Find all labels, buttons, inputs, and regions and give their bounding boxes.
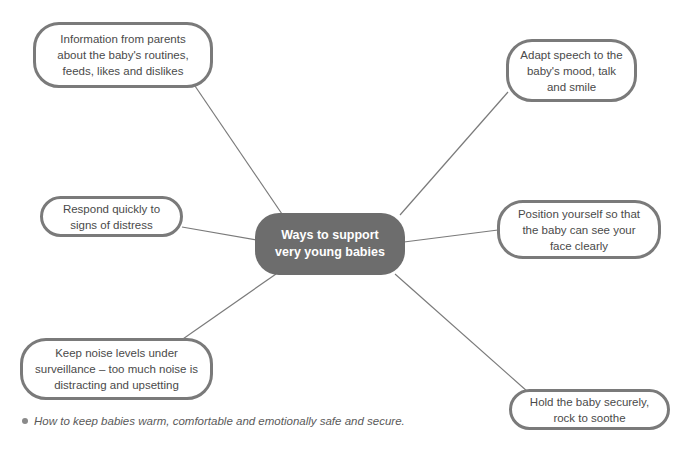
- connector-noise-levels: [180, 274, 276, 341]
- node-adapt-speech: Adapt speech to the baby's mood, talk an…: [506, 39, 637, 102]
- node-label: Keep noise levels under surveillance – t…: [33, 345, 200, 393]
- node-label: Information from parents about the baby'…: [46, 31, 200, 79]
- node-label: Adapt speech to the baby's mood, talk an…: [519, 47, 624, 95]
- figure-caption: How to keep babies warm, comfortable and…: [22, 415, 405, 427]
- center-node-label: Ways to support very young babies: [271, 227, 389, 261]
- mind-map-canvas: Ways to support very young babies Inform…: [0, 0, 692, 456]
- connector-respond-distress: [182, 227, 257, 240]
- caption-text: How to keep babies warm, comfortable and…: [34, 415, 405, 427]
- node-noise-levels: Keep noise levels under surveillance – t…: [20, 338, 213, 400]
- node-label: Respond quickly to signs of distress: [53, 201, 170, 233]
- center-node: Ways to support very young babies: [255, 213, 405, 275]
- bullet-icon: [22, 418, 28, 424]
- connector-adapt-speech: [400, 92, 508, 215]
- node-label: Hold the baby securely, rock to soothe: [522, 394, 657, 426]
- connector-hold-securely: [395, 274, 528, 392]
- connector-position-face: [404, 230, 498, 242]
- node-respond-distress: Respond quickly to signs of distress: [40, 196, 183, 237]
- node-label: Position yourself so that the baby can s…: [510, 206, 648, 254]
- connector-parents-info: [195, 86, 282, 214]
- node-parents-info: Information from parents about the baby'…: [33, 22, 213, 88]
- node-hold-securely: Hold the baby securely, rock to soothe: [509, 389, 670, 430]
- node-position-face: Position yourself so that the baby can s…: [497, 200, 661, 259]
